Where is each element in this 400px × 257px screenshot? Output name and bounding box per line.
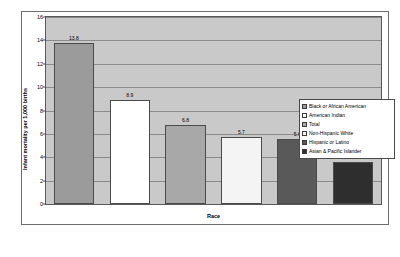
legend-swatch-icon (302, 149, 307, 154)
legend-swatch-icon (302, 113, 307, 118)
legend-item-label: Black or African American (309, 103, 366, 110)
legend-item-label: American Indian (309, 112, 345, 119)
legend-item: Black or African American (302, 102, 392, 111)
legend-swatch-icon (302, 140, 307, 145)
legend-swatch-icon (302, 131, 307, 136)
legend-item-label: Hispanic or Latino (309, 139, 349, 146)
legend-item: Total (302, 120, 392, 129)
legend-swatch-icon (302, 122, 307, 127)
y-tick-label: 12 (37, 61, 43, 67)
legend-item: American Indian (302, 111, 392, 120)
bar (333, 162, 373, 204)
bar (221, 137, 261, 204)
infant-mortality-bar-chart: Infant mortality per 1,000 births 024681… (0, 0, 400, 257)
legend-item: Asian & Pacific Islander (302, 147, 392, 156)
y-tick-label: 10 (37, 84, 43, 90)
legend-item-label: Asian & Pacific Islander (309, 148, 362, 155)
y-tick-label: 16 (37, 14, 43, 20)
bar-value-label: 8.9 (110, 92, 150, 98)
legend-item: Non-Hispanic White (302, 129, 392, 138)
legend-item-label: Non-Hispanic White (309, 130, 353, 137)
y-tick-label: 0 (40, 201, 43, 207)
y-axis-title: Infant mortality per 1,000 births (22, 49, 28, 209)
bar-value-label: 5.7 (221, 129, 261, 135)
y-tick-label: 4 (40, 154, 43, 160)
bar-value-label: 6.8 (165, 117, 205, 123)
legend-item-label: Total (309, 121, 320, 128)
x-axis-title: Race (45, 213, 382, 219)
legend-swatch-icon (302, 104, 307, 109)
chart-legend: Black or African AmericanAmerican Indian… (299, 99, 395, 159)
bar (54, 43, 94, 204)
legend-item: Hispanic or Latino (302, 138, 392, 147)
bar (165, 125, 205, 204)
bar-value-label: 13.8 (54, 35, 94, 41)
bar (110, 100, 150, 204)
y-tick-label: 8 (40, 108, 43, 114)
y-tick-label: 14 (37, 37, 43, 43)
y-tick-label: 2 (40, 178, 43, 184)
y-tick-label: 6 (40, 131, 43, 137)
